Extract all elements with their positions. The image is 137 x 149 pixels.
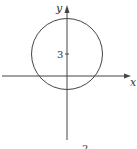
- y-axis-label: y: [55, 2, 63, 15]
- x-axis-label: x: [130, 76, 137, 89]
- coordinate-diagram: 3 y x 2: [0, 0, 137, 149]
- caption-fragment: 2: [82, 143, 88, 149]
- y-axis-arrow-icon: [65, 5, 70, 13]
- tick-label: 3: [57, 49, 63, 60]
